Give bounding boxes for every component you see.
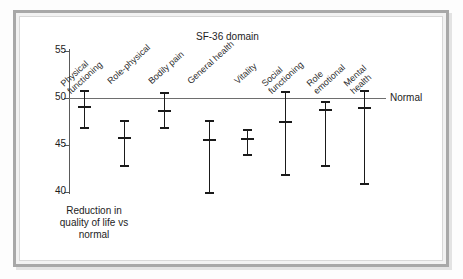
error-bar-upper-cap [243,129,252,131]
y-tick-label-45: 45 [46,139,66,149]
page-root: SF-36 domain 55 50 45 40 Normal Reductio… [0,0,463,279]
error-bar-lower-cap [120,165,129,167]
error-bar-mean-marker [358,107,371,109]
error-bar-lower-cap [321,165,330,167]
error-bar-lower-cap [205,192,214,194]
error-bar-mean-marker [158,110,171,112]
normal-reference-label: Normal [390,92,422,103]
error-bar-stem [209,120,210,192]
error-bar-upper-cap [205,120,214,122]
category-label-role-physical: Role-physical [105,42,152,86]
error-bar-stem [124,120,125,165]
error-bar-lower-cap [80,127,89,129]
error-bar-lower-cap [243,154,252,156]
category-label-general-health: General health [185,39,236,86]
error-bar-lower-cap [360,183,369,185]
category-label-physical-functioning: Physical functioning [59,52,105,96]
error-bar-stem [247,129,248,154]
category-label-line1: Vitality [232,61,258,86]
chart-plot-area: SF-36 domain 55 50 45 40 Normal Reductio… [0,0,463,279]
error-bar-mean-marker [78,106,91,108]
category-label-social-functioning: Social functioning [260,52,306,96]
error-bar-stem [285,91,286,174]
y-axis-label-line1: Reduction in [66,205,122,216]
error-bar-mean-marker [279,121,292,123]
category-label-vitality: Vitality [232,61,258,86]
error-bar-upper-cap [160,92,169,94]
category-label-role-emotional: Role emotional [305,55,347,96]
error-bar-lower-cap [160,127,169,129]
error-bar-mean-marker [241,138,254,140]
y-axis-label-line2: quality of life vs [60,217,128,228]
y-axis-label: Reduction in quality of life vs normal [40,205,148,241]
category-label-line1: Bodily pain [146,49,185,86]
error-bar-stem [84,90,85,127]
y-axis-label-line3: normal [79,229,110,240]
category-label-bodily-pain: Bodily pain [146,49,185,86]
category-label-line1: Role-physical [105,42,152,86]
error-bar-upper-cap [120,120,129,122]
error-bar-upper-cap [321,101,330,103]
category-label-line1: General health [185,39,236,86]
y-tick-label-40: 40 [46,186,66,196]
error-bar-lower-cap [281,174,290,176]
category-label-mental-health: Mental health [342,63,375,96]
error-bar-mean-marker [118,137,131,139]
error-bar-mean-marker [203,139,216,141]
y-tick-label-50: 50 [46,92,66,102]
y-tick-label-55: 55 [46,45,66,55]
error-bar-upper-cap [281,91,290,93]
error-bar-stem [364,90,365,182]
error-bar-upper-cap [80,90,89,92]
error-bar-upper-cap [360,90,369,92]
normal-reference-line [69,98,386,99]
error-bar-mean-marker [319,109,332,111]
